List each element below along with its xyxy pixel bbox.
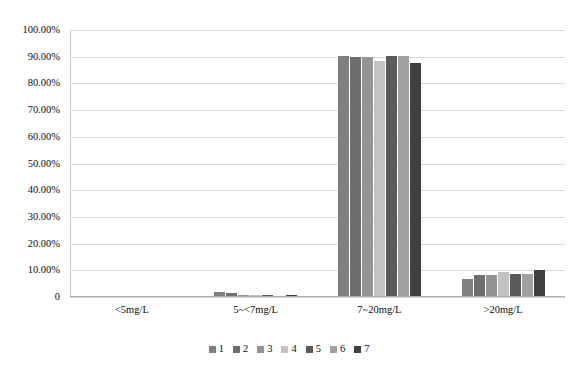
legend-label: 7 xyxy=(364,344,369,355)
legend-label: 5 xyxy=(316,344,321,355)
bar xyxy=(534,270,545,297)
legend-swatch-icon xyxy=(354,346,361,353)
legend-item[interactable]: 4 xyxy=(281,344,296,355)
legend-item[interactable]: 3 xyxy=(257,344,272,355)
chart-legend: 1234567 xyxy=(0,341,578,357)
bar-groups xyxy=(70,30,565,297)
legend-label: 1 xyxy=(219,344,224,355)
y-axis-tick-label: 40.00% xyxy=(0,185,60,196)
bar-group xyxy=(194,30,318,297)
y-axis-tick-label: 60.00% xyxy=(0,132,60,143)
bar xyxy=(374,61,385,297)
x-axis-tick-label: 7~20mg/L xyxy=(318,303,442,323)
y-axis-tick-label: 10.00% xyxy=(0,265,60,276)
legend-swatch-icon xyxy=(281,346,288,353)
gridline xyxy=(70,297,565,298)
y-axis-labels: 100.00%90.00%80.00%70.00%60.00%50.00%40.… xyxy=(0,0,64,371)
y-axis-tick-label: 30.00% xyxy=(0,212,60,223)
bar xyxy=(522,274,533,297)
bar xyxy=(474,275,485,297)
legend-item[interactable]: 1 xyxy=(209,344,224,355)
x-axis-tick-label: 5~<7mg/L xyxy=(194,303,318,323)
legend-label: 3 xyxy=(267,344,272,355)
legend-label: 6 xyxy=(340,344,345,355)
bar xyxy=(398,56,409,297)
y-axis-tick-label: 70.00% xyxy=(0,105,60,116)
x-axis-tick-label: >20mg/L xyxy=(441,303,565,323)
x-axis-tick-label: <5mg/L xyxy=(70,303,194,323)
legend-swatch-icon xyxy=(306,346,313,353)
y-axis-tick-label: 0 xyxy=(0,292,60,303)
y-axis-tick-label: 50.00% xyxy=(0,159,60,170)
legend-swatch-icon xyxy=(233,346,240,353)
bar xyxy=(510,274,521,297)
legend-item[interactable]: 2 xyxy=(233,344,248,355)
y-axis-tick-label: 20.00% xyxy=(0,239,60,250)
category-axis-line xyxy=(70,296,565,297)
legend-swatch-icon xyxy=(257,346,264,353)
plot-area xyxy=(70,30,565,297)
legend-swatch-icon xyxy=(330,346,337,353)
bar xyxy=(338,56,349,297)
legend-label: 4 xyxy=(291,344,296,355)
bar xyxy=(462,279,473,297)
bar xyxy=(362,57,373,297)
legend-item[interactable]: 5 xyxy=(306,344,321,355)
legend-item[interactable]: 7 xyxy=(354,344,369,355)
x-axis-labels: <5mg/L5~<7mg/L7~20mg/L>20mg/L xyxy=(70,303,565,323)
y-axis-tick-label: 90.00% xyxy=(0,52,60,63)
legend-item[interactable]: 6 xyxy=(330,344,345,355)
y-axis-tick-label: 80.00% xyxy=(0,78,60,89)
bar-chart: 100.00%90.00%80.00%70.00%60.00%50.00%40.… xyxy=(0,0,578,371)
bar-group xyxy=(70,30,194,297)
legend-swatch-icon xyxy=(209,346,216,353)
bar xyxy=(486,275,497,297)
bar-group xyxy=(441,30,565,297)
bar-group xyxy=(318,30,442,297)
bar xyxy=(410,63,421,297)
bar xyxy=(350,57,361,297)
bar xyxy=(386,56,397,297)
bar xyxy=(498,272,509,297)
y-axis-tick-label: 100.00% xyxy=(0,25,60,36)
legend-label: 2 xyxy=(243,344,248,355)
